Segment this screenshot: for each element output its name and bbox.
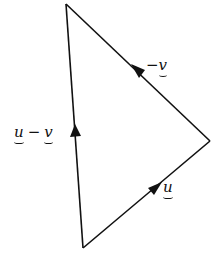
label-v: v [159,58,167,73]
label-v: v [44,125,52,140]
label-minus-op: − [28,123,41,141]
arrowhead-neg-v-icon [131,64,145,78]
label-u-text: u [163,180,173,195]
arrowhead-u-icon [148,182,162,195]
label-u-minus-v: u−v [14,125,53,140]
arrowhead-u-minus-v-icon [70,124,81,137]
vector-triangle-diagram: −v u−v u [0,0,224,255]
label-u: u [163,180,173,195]
edge-u [83,141,210,248]
label-neg-v: −v [146,58,167,73]
label-minus-sign: − [146,56,159,74]
label-u: u [14,125,24,140]
